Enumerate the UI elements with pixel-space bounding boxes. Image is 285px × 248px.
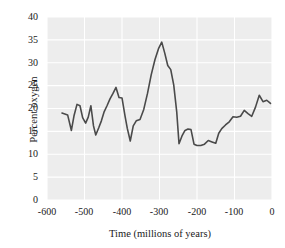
plot-area — [0, 0, 285, 248]
oxygen-over-time-chart: Percent oxygen Time (millions of years) … — [0, 0, 285, 248]
